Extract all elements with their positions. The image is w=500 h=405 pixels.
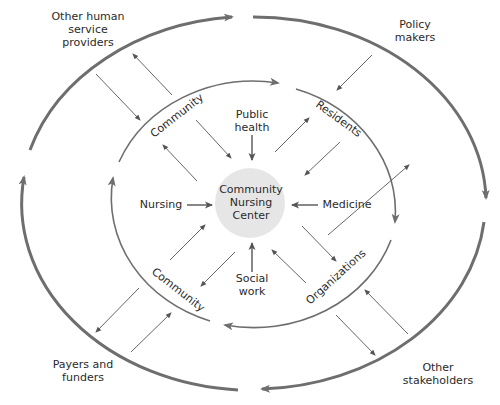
discipline-medicine: Medicine xyxy=(322,198,372,211)
label-residents: Residents xyxy=(313,98,364,140)
label-organizations: Organizations xyxy=(303,246,368,307)
label-community-top: Community xyxy=(148,91,207,141)
stakeholder-other-stakeholders: Other stakeholders xyxy=(398,361,478,387)
discipline-nursing: Nursing xyxy=(136,198,186,211)
center-label: Community Nursing Center xyxy=(215,183,287,222)
stakeholder-policy-makers: Policy makers xyxy=(385,18,445,44)
discipline-public-health: Public health xyxy=(225,108,279,134)
outer-arc-top-right xyxy=(253,17,486,198)
stakeholder-payers-and-funders: Payers and funders xyxy=(48,358,118,384)
discipline-social-work: Social work xyxy=(225,272,279,298)
stakeholder-other-human-service-providers: Other human service providers xyxy=(48,10,128,49)
community-nursing-diagram: Community Residents Community Organizati… xyxy=(0,0,500,405)
